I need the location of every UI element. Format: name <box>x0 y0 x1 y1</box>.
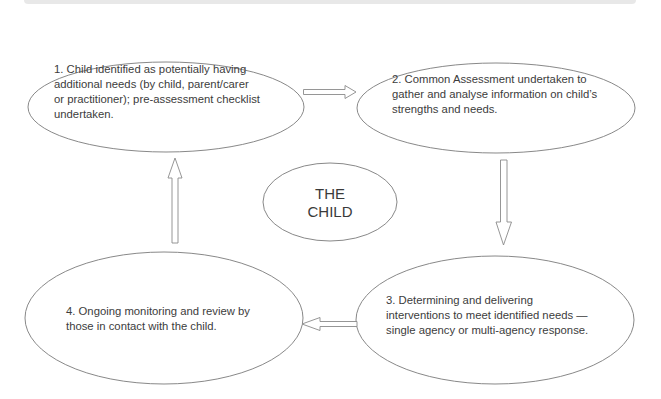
node-3-line-1: 3. Determining and delivering <box>386 293 588 308</box>
node-2-text: 2. Common Assessment undertaken to gathe… <box>392 72 597 117</box>
node-1-line-4: undertaken. <box>54 107 260 122</box>
node-1-line-3: or practitioner); pre-assessment checkli… <box>54 92 260 107</box>
node-3-line-2: interventions to meet identified needs — <box>386 308 588 323</box>
node-2-line-1: 2. Common Assessment undertaken to <box>392 72 597 87</box>
node-3-line-3: single agency or multi-agency response. <box>386 323 588 338</box>
arrow-left-icon <box>302 318 357 331</box>
node-2-line-2: gather and analyse information on child’… <box>392 87 597 102</box>
node-1-line-1: 1. Child identified as potentially havin… <box>54 62 260 77</box>
center-label: THE CHILD <box>290 185 370 221</box>
arrow-up-icon <box>168 158 182 243</box>
node-4-text: 4. Ongoing monitoring and review by thos… <box>66 304 250 334</box>
node-4-line-2: those in contact with the child. <box>66 319 250 334</box>
node-1-line-2: additional needs (by child, parent/carer <box>54 77 260 92</box>
node-2-line-3: strengths and needs. <box>392 102 597 117</box>
arrow-right-icon <box>304 86 357 99</box>
node-3-text: 3. Determining and delivering interventi… <box>386 293 588 338</box>
node-4-line-1: 4. Ongoing monitoring and review by <box>66 304 250 319</box>
arrow-down-icon <box>496 160 512 245</box>
center-line-2: CHILD <box>290 203 370 221</box>
node-1-text: 1. Child identified as potentially havin… <box>54 62 260 122</box>
center-line-1: THE <box>290 185 370 203</box>
